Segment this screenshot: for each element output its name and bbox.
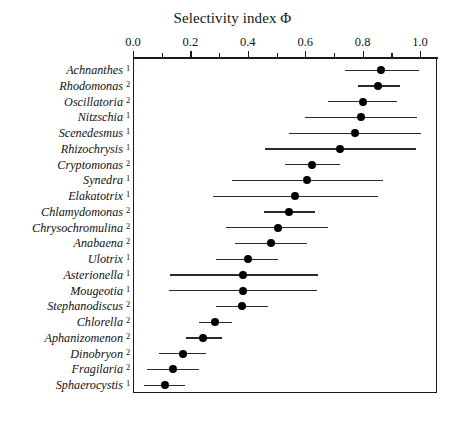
species-group-superscript: 1 — [126, 188, 130, 201]
species-label: Elakatotrix — [68, 188, 123, 204]
data-point — [359, 98, 367, 106]
species-group-superscript: 1 — [126, 109, 130, 122]
species-label: Nitzschia — [78, 109, 123, 125]
selectivity-index-figure: Selectivity index Φ 0.00.20.40.60.81.0 A… — [0, 0, 465, 426]
data-point — [211, 318, 219, 326]
species-group-superscript: 2 — [126, 94, 130, 107]
data-point — [239, 271, 247, 279]
species-group-superscript: 2 — [126, 157, 130, 170]
species-label: Achnanthes — [66, 62, 123, 78]
x-tick-major — [248, 51, 249, 57]
data-row: Fragilaria2 — [0, 361, 465, 377]
x-tick-minor — [277, 53, 278, 57]
species-label: Ulotrix — [88, 251, 123, 267]
species-group-superscript: 1 — [126, 267, 130, 280]
x-tick-minor — [391, 53, 392, 57]
species-group-superscript: 2 — [126, 235, 130, 248]
species-label: Fragilaria — [72, 361, 123, 377]
species-group-superscript: 1 — [126, 283, 130, 296]
data-point — [285, 208, 293, 216]
data-row: Rhizochrysis1 — [0, 141, 465, 157]
data-point — [336, 145, 344, 153]
data-point — [169, 365, 177, 373]
species-label: Synedra — [83, 172, 123, 188]
data-rows: Achnanthes1Rhodomonas2Oscillatoria2Nitzs… — [0, 0, 465, 426]
data-row: Asterionella1 — [0, 267, 465, 283]
x-tick-major — [305, 51, 306, 57]
data-point — [244, 255, 252, 263]
species-label: Anabaena — [74, 235, 123, 251]
data-row: Ulotrix1 — [0, 251, 465, 267]
data-row: Dinobryon2 — [0, 346, 465, 362]
x-tick-major — [190, 51, 191, 57]
data-point — [374, 82, 382, 90]
x-tick-minor — [334, 53, 335, 57]
x-tick-major — [363, 51, 364, 57]
data-row: Aphanizomenon2 — [0, 330, 465, 346]
data-point — [351, 129, 359, 137]
data-point — [357, 113, 365, 121]
data-point — [199, 334, 207, 342]
x-tick-minor — [219, 53, 220, 57]
species-label: Sphaerocystis — [56, 377, 123, 393]
data-point — [308, 161, 316, 169]
data-point — [238, 302, 246, 310]
species-label: Asterionella — [63, 267, 123, 283]
species-group-superscript: 1 — [126, 172, 130, 185]
species-group-superscript: 2 — [126, 330, 130, 343]
data-point — [303, 176, 311, 184]
species-group-superscript: 2 — [126, 220, 130, 233]
data-point — [291, 192, 299, 200]
data-row: Scenedesmus1 — [0, 125, 465, 141]
data-row: Chlamydomonas2 — [0, 204, 465, 220]
species-label: Dinobryon — [70, 346, 123, 362]
species-group-superscript: 2 — [126, 78, 130, 91]
data-point — [267, 239, 275, 247]
species-label: Oscillatoria — [64, 94, 123, 110]
species-label: Aphanizomenon — [44, 330, 123, 346]
species-label: Stephanodiscus — [47, 298, 123, 314]
species-group-superscript: 1 — [126, 251, 130, 264]
species-group-superscript: 2 — [126, 204, 130, 217]
data-point — [161, 381, 169, 389]
data-row: Oscillatoria2 — [0, 94, 465, 110]
data-point — [179, 350, 187, 358]
species-group-superscript: 1 — [126, 62, 130, 75]
species-group-superscript: 2 — [126, 314, 130, 327]
x-tick-minor — [162, 53, 163, 57]
data-point — [274, 224, 282, 232]
data-row: Cryptomonas2 — [0, 157, 465, 173]
species-label: Rhodomonas — [59, 78, 123, 94]
data-row: Elakatotrix1 — [0, 188, 465, 204]
data-row: Achnanthes1 — [0, 62, 465, 78]
data-point — [377, 66, 385, 74]
species-label: Mougeotia — [70, 283, 123, 299]
data-row: Mougeotia1 — [0, 283, 465, 299]
data-row: Chrysochromulina2 — [0, 220, 465, 236]
species-group-superscript: 2 — [126, 298, 130, 311]
species-label: Chrysochromulina — [32, 220, 123, 236]
species-label: Rhizochrysis — [61, 141, 123, 157]
species-label: Scenedesmus — [59, 125, 123, 141]
data-row: Anabaena2 — [0, 235, 465, 251]
species-group-superscript: 2 — [126, 361, 130, 374]
species-label: Chlamydomonas — [41, 204, 123, 220]
species-group-superscript: 1 — [126, 125, 130, 138]
data-row: Sphaerocystis1 — [0, 377, 465, 393]
data-row: Stephanodiscus2 — [0, 298, 465, 314]
species-label: Chlorella — [77, 314, 123, 330]
data-point — [239, 287, 247, 295]
x-tick-major — [420, 51, 421, 57]
species-group-superscript: 1 — [126, 141, 130, 154]
species-group-superscript: 2 — [126, 346, 130, 359]
species-group-superscript: 1 — [126, 377, 130, 390]
data-row: Nitzschia1 — [0, 109, 465, 125]
data-row: Rhodomonas2 — [0, 78, 465, 94]
x-tick-major — [133, 51, 134, 57]
data-row: Synedra1 — [0, 172, 465, 188]
data-row: Chlorella2 — [0, 314, 465, 330]
species-label: Cryptomonas — [57, 157, 123, 173]
